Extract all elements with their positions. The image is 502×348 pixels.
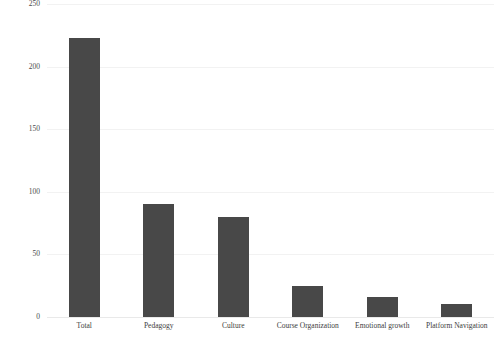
plot-area: 050100150200250 [47, 4, 494, 317]
y-axis-tick-label: 0 [4, 313, 40, 321]
bar [367, 297, 398, 317]
y-axis-tick-label: 150 [4, 125, 40, 133]
gridline [47, 317, 494, 318]
bar [69, 38, 100, 317]
x-axis-tick-label: Emotional growth [355, 322, 409, 330]
y-axis-tick-label: 50 [4, 251, 40, 259]
y-axis-tick-label: 250 [4, 0, 40, 8]
bar-chart: 050100150200250 TotalPedagogyCultureCour… [0, 0, 502, 348]
bar [218, 217, 249, 317]
x-axis-tick-label: Course Organization [277, 322, 339, 330]
y-axis-tick-label: 200 [4, 63, 40, 71]
x-axis-tick-label: Culture [222, 322, 245, 330]
bar [292, 286, 323, 317]
x-axis-tick-label: Pedagogy [144, 322, 174, 330]
bars-layer [47, 4, 494, 317]
x-axis-tick-label: Total [77, 322, 92, 330]
bar [441, 304, 472, 317]
x-axis-tick-labels: TotalPedagogyCultureCourse OrganizationE… [47, 320, 494, 342]
bar [143, 204, 174, 317]
x-axis-tick-label: Platform Navigation [426, 322, 487, 330]
y-axis-tick-label: 100 [4, 188, 40, 196]
